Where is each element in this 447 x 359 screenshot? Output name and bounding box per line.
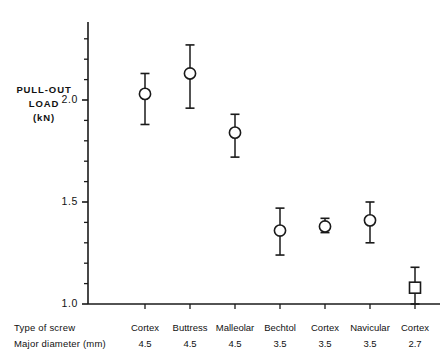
x-diameter-label: 2.7: [408, 338, 421, 349]
data-point-group: [319, 218, 330, 232]
pull-out-load-chart: PULL-OUT LOAD (kN) Type of screw Major d…: [0, 0, 447, 359]
x-diameter-label: 3.5: [363, 338, 376, 349]
data-marker-circle: [274, 225, 285, 236]
x-category-label: Malleolar: [216, 322, 255, 333]
y-tick-label: 1.0: [48, 297, 78, 309]
data-marker-circle: [319, 221, 330, 232]
data-marker-circle: [184, 68, 195, 79]
x-diameter-label: 3.5: [273, 338, 286, 349]
data-marker-circle: [364, 215, 375, 226]
x-axis-row-header-diameter: Major diameter (mm): [14, 338, 106, 349]
y-tick-label: 2.0: [48, 93, 78, 105]
x-category-label: Cortex: [131, 322, 159, 333]
data-marker-square: [410, 282, 421, 293]
y-axis-title-line-3: (kN): [6, 112, 82, 123]
data-point-group: [364, 202, 375, 243]
data-marker-circle: [229, 127, 240, 138]
x-category-label: Navicular: [350, 322, 390, 333]
data-point-group: [274, 208, 285, 255]
x-category-label: Cortex: [311, 322, 339, 333]
x-diameter-label: 4.5: [183, 338, 196, 349]
y-tick-label: 1.5: [48, 195, 78, 207]
x-diameter-label: 3.5: [318, 338, 331, 349]
data-marker-circle: [139, 88, 150, 99]
x-diameter-label: 4.5: [138, 338, 151, 349]
x-category-label: Cortex: [401, 322, 429, 333]
x-axis-row-header-type: Type of screw: [14, 322, 75, 333]
data-point-group: [229, 114, 240, 157]
data-point-group: [184, 45, 195, 108]
x-diameter-label: 4.5: [228, 338, 241, 349]
x-category-label: Bechtol: [264, 322, 296, 333]
data-point-group: [139, 73, 150, 124]
x-category-label: Buttress: [173, 322, 208, 333]
data-point-group: [410, 267, 421, 304]
